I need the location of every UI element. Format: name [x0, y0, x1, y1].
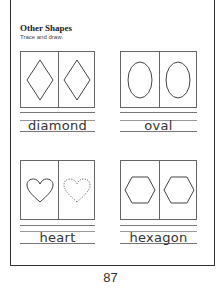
shape-cell-hexagon	[120, 160, 197, 220]
cell-divider	[58, 161, 59, 219]
writing-lines-hexagon: hexagon	[120, 225, 197, 247]
shape-word-oval: oval	[120, 119, 197, 132]
shape-word-diamond: diamond	[20, 119, 95, 132]
shape-word-heart: heart	[20, 231, 95, 244]
cell-divider	[58, 52, 59, 107]
cell-divider	[159, 52, 160, 107]
diamond-icon	[25, 58, 55, 102]
oval-icon	[126, 58, 154, 102]
worksheet-title: Other Shapes	[20, 23, 72, 33]
oval-trace-icon	[164, 58, 192, 102]
diamond-trace-icon	[62, 58, 92, 102]
heart-trace-icon	[63, 178, 91, 204]
shape-word-hexagon: hexagon	[120, 231, 197, 244]
writing-lines-diamond: diamond	[20, 112, 95, 134]
worksheet-instruction: Trace and draw.	[20, 34, 63, 40]
writing-lines-oval: oval	[120, 112, 197, 134]
heart-icon	[26, 178, 54, 204]
shape-cell-heart	[20, 160, 95, 220]
hexagon-trace-icon	[163, 176, 195, 204]
hexagon-icon	[124, 176, 156, 204]
page-number: 87	[0, 270, 221, 285]
shape-cell-diamond	[20, 51, 95, 108]
cell-divider	[159, 161, 160, 219]
shape-cell-oval	[120, 51, 197, 108]
writing-lines-heart: heart	[20, 225, 95, 247]
